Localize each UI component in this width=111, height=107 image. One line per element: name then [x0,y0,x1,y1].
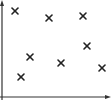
x-marker-icon [58,60,64,66]
y-axis-arrow-icon [0,0,4,6]
x-marker-icon [84,43,90,49]
x-marker-icon [18,74,24,80]
x-marker-icon [27,54,33,60]
x-axis [0,95,111,99]
x-marker-icon [99,65,105,71]
y-axis [0,0,4,100]
scatter-plot [0,0,111,107]
x-axis-arrow-icon [105,95,111,99]
data-markers [12,8,105,80]
x-marker-icon [80,13,86,19]
x-marker-icon [12,8,18,14]
x-marker-icon [46,15,52,21]
